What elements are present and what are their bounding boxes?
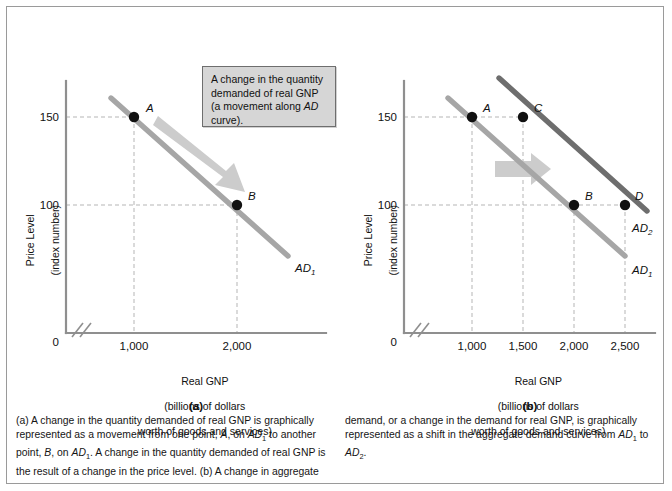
ad1-curve-b (448, 98, 625, 256)
panel-letter-b: (b) (510, 400, 550, 412)
x-tick-1500-b: 1,500 (509, 340, 538, 352)
y-axis-title-line2-a: (index number) (49, 205, 61, 276)
axes-b (404, 81, 655, 333)
point-C-label-b: C (534, 102, 543, 114)
panel-a: A B AD1 150 100 0 1,000 2,000 Price Leve… (6, 6, 335, 406)
panel-letter-a: (a) (176, 400, 216, 412)
point-C-b (518, 112, 528, 122)
gridlines-a (66, 117, 237, 333)
callout-a-line4: curve). (211, 114, 243, 126)
caption-a: (a) A change in the quantity demanded of… (16, 414, 328, 479)
x-tick-2000-b: 2,000 (560, 340, 589, 352)
point-B (232, 200, 242, 210)
y-tick-150-b: 150 (378, 111, 397, 123)
y-axis-title-line2-b: (index number) (387, 205, 399, 276)
x-axis-title-line1-a: Real GNP (181, 375, 228, 387)
x-axis-title-line1-b: Real GNP (515, 375, 562, 387)
caption-a-em2: AD (248, 429, 262, 440)
figure-root: A B AD1 150 100 0 1,000 2,000 Price Leve… (0, 0, 672, 491)
x-tick-1000-b: 1,000 (458, 340, 487, 352)
axis-break-b (410, 323, 429, 337)
movement-arrow-a (153, 116, 245, 192)
x-tick-2500-b: 2,500 (611, 340, 640, 352)
y-tick-150-a: 150 (40, 111, 59, 123)
ad1-curve-label-b: AD1 (631, 264, 652, 279)
point-B-label-b: B (585, 190, 593, 202)
caption-b-em1: AD (618, 429, 632, 440)
caption-b-em2: AD (345, 447, 359, 458)
axis-break-a (72, 323, 91, 337)
callout-a-line3-pre: (a movement along (211, 100, 304, 112)
y-axis-title-line1-b: Price Level (362, 214, 374, 266)
caption-b: demand, or a change in the demand for re… (345, 414, 657, 465)
point-B-b (569, 200, 579, 210)
point-D-label-b: D (635, 190, 643, 202)
callout-a-line2: demanded of real GNP (211, 87, 318, 99)
ad1-curve-label-a: AD1 (294, 262, 315, 277)
point-A (129, 112, 139, 122)
callout-a-line3-em: AD (304, 100, 319, 112)
point-A-b (467, 112, 477, 122)
point-A-label-b: A (482, 102, 491, 114)
origin-label-b: 0 (391, 336, 397, 348)
y-axis-title-b: Price Level (index number) (350, 194, 412, 304)
caption-a-seg2: , on (227, 429, 247, 440)
y-axis-title-a: Price Level (index number) (12, 194, 74, 304)
caption-b-seg2: to (637, 429, 649, 440)
origin-label-a: 0 (53, 336, 59, 348)
point-B-label: B (248, 190, 256, 202)
callout-a: A change in the quantity demanded of rea… (202, 66, 336, 127)
point-A-label: A (145, 102, 154, 114)
point-D-b (620, 200, 630, 210)
caption-b-seg1: demand, or a change in the demand for re… (345, 415, 637, 440)
callout-a-line1: A change in the quantity (211, 73, 323, 85)
caption-a-seg4: , on (51, 447, 71, 458)
x-tick-1000-a: 1,000 (120, 340, 149, 352)
caption-a-em4: AD (71, 447, 85, 458)
ad2-curve-b (499, 78, 647, 211)
panel-b: A C B D AD2 AD1 150 100 0 1,000 1,500 2,… (335, 6, 664, 406)
caption-b-seg3: . (364, 447, 367, 458)
ad2-curve-label-b: AD2 (631, 222, 653, 237)
x-tick-2000-a: 2,000 (223, 340, 252, 352)
y-axis-title-line1-a: Price Level (24, 214, 36, 266)
